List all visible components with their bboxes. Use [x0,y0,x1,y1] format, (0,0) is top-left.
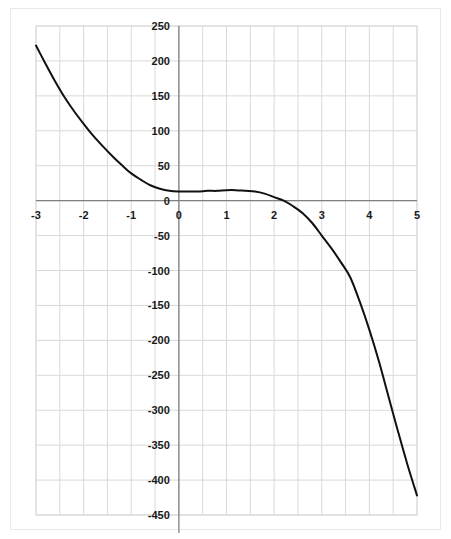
y-tick-label: -50 [154,230,170,242]
y-tick-label: -150 [148,299,170,311]
x-tick-label: -1 [126,209,136,221]
y-tick-label: 150 [152,90,170,102]
y-tick-label: 0 [164,195,170,207]
y-tick-label: -400 [148,474,170,486]
y-tick-label: -350 [148,439,170,451]
function-plot: 250200150100500-50-100-150-200-250-300-3… [0,0,451,539]
y-tick-label: -200 [148,334,170,346]
y-tick-label: -100 [148,265,170,277]
y-tick-label: -450 [148,509,170,521]
y-tick-label: 250 [152,20,170,32]
y-tick-label: 100 [152,125,170,137]
x-tick-label: 3 [319,209,325,221]
y-tick-label: 200 [152,55,170,67]
x-tick-label: 1 [223,209,229,221]
y-tick-label: -250 [148,369,170,381]
y-tick-label: 50 [158,160,170,172]
x-tick-label: 4 [366,209,373,221]
x-tick-label: 2 [271,209,277,221]
x-tick-label: -2 [79,209,89,221]
x-tick-label: 5 [414,209,420,221]
y-tick-label: -300 [148,404,170,416]
x-tick-label: -3 [31,209,41,221]
y-axis-tick-labels: 250200150100500-50-100-150-200-250-300-3… [148,20,170,521]
x-tick-label-zero: 0 [176,209,182,221]
chart-root: 250200150100500-50-100-150-200-250-300-3… [0,0,451,539]
